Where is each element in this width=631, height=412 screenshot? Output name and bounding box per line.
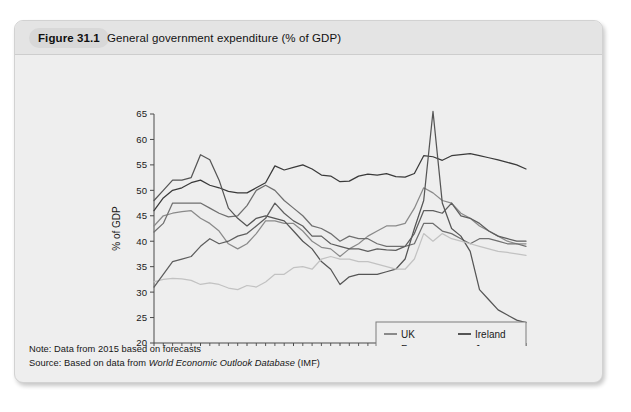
series-line-france (154, 154, 526, 211)
series-line-canada (154, 185, 526, 246)
figure-header: Figure 31.1 General government expenditu… (15, 21, 602, 55)
series-line-ireland (154, 111, 526, 322)
source-prefix: Source: Based on data from (29, 358, 149, 368)
figure-title: General government expenditure (% of GDP… (107, 30, 341, 46)
y-tick-label: 50 (136, 185, 147, 196)
y-axis-title: % of GDP (111, 206, 122, 251)
series-line-japan (154, 234, 526, 290)
y-tick-label: 60 (136, 134, 147, 145)
source-suffix: (IMF) (295, 358, 320, 368)
note-line: Note: Data from 2015 based on forecasts (29, 343, 589, 357)
figure-panel: Figure 31.1 General government expenditu… (14, 20, 603, 383)
source-database-name: World Economic Outlook Database (149, 358, 295, 368)
legend-label-ireland: Ireland (475, 329, 506, 340)
note-text: Note: Data from 2015 based on forecasts (29, 344, 201, 354)
figure-notes: Note: Data from 2015 based on forecasts … (29, 343, 589, 370)
y-tick-label: 40 (136, 236, 147, 247)
y-tick-label: 65 (136, 108, 147, 119)
y-tick-label: 45 (136, 210, 147, 221)
source-line: Source: Based on data from World Economi… (29, 357, 589, 371)
chart-plot-area: 20253035404550556065% of GDP198019851990… (15, 55, 602, 346)
line-chart: 20253035404550556065% of GDP198019851990… (15, 55, 602, 346)
y-tick-label: 35 (136, 261, 147, 272)
legend-label-uk: UK (401, 329, 415, 340)
y-tick-label: 30 (136, 287, 147, 298)
y-tick-label: 25 (136, 312, 147, 323)
figure-number-badge: Figure 31.1 (29, 28, 109, 48)
series-line-spain (154, 203, 526, 287)
y-tick-label: 55 (136, 159, 147, 170)
